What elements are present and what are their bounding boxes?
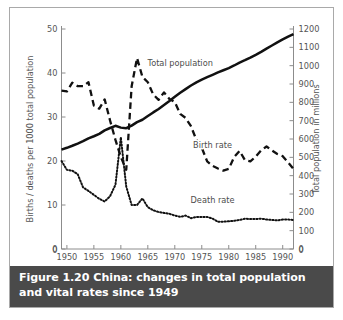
x-axis-ticks: 19501955196019651970197519801985199000	[52, 245, 303, 262]
x-tick-label: 1955	[83, 252, 104, 262]
series-label-total-population: Total population	[147, 58, 213, 68]
series-label-birth-rate: Birth rate	[193, 140, 232, 150]
x-tick-label: 1950	[56, 252, 77, 262]
right-tick-label: 0	[299, 245, 304, 255]
left-tick-label: 20	[47, 156, 57, 166]
left-tick-label: 10	[47, 200, 57, 210]
left-tick-label: 30	[47, 112, 57, 122]
right-tick-label: 1000	[299, 61, 320, 71]
population-vital-rates-chart: 01020304050 0100200300400500600700800900…	[10, 8, 333, 266]
series-line-death-rate	[62, 137, 294, 221]
left-axis-title: Births / deaths per 1000 total populatio…	[25, 56, 35, 223]
chart-series-labels: Total populationTotal populationBirth ra…	[147, 58, 235, 205]
left-tick-label: 0	[52, 245, 57, 255]
figure-caption-bar: Figure 1.20China: changes in total popul…	[10, 266, 333, 307]
right-tick-label: 1100	[299, 42, 320, 52]
x-tick-label: 1985	[245, 252, 266, 262]
right-tick-label: 200	[299, 207, 315, 217]
left-tick-label: 40	[47, 68, 57, 78]
x-tick-label: 1970	[164, 252, 185, 262]
series-line-birth-rate	[62, 58, 294, 171]
figure-caption-label: Figure 1.20	[19, 271, 89, 284]
x-tick-label: 1990	[272, 252, 293, 262]
x-tick-label: 1975	[191, 252, 212, 262]
series-label-death-rate: Death rate	[191, 195, 235, 205]
x-tick-label: 1980	[218, 252, 239, 262]
x-tick-label: 1965	[137, 252, 158, 262]
figure-frame: 01020304050 0100200300400500600700800900…	[9, 7, 334, 308]
axis-titles: Births / deaths per 1000 total populatio…	[25, 56, 321, 223]
left-tick-label: 50	[47, 24, 57, 34]
left-axis-ticks: 01020304050	[47, 24, 65, 254]
right-axis-title: Total population in millions	[311, 84, 321, 195]
series-line-total-population	[62, 34, 294, 150]
figure-caption: Figure 1.20China: changes in total popul…	[19, 271, 325, 300]
right-tick-label: 100	[299, 226, 315, 236]
figure-container: 01020304050 0100200300400500600700800900…	[0, 0, 343, 320]
chart-plot-panel: 01020304050 0100200300400500600700800900…	[10, 8, 333, 266]
x-tick-label: 1960	[110, 252, 131, 262]
right-tick-label: 1200	[299, 24, 320, 34]
